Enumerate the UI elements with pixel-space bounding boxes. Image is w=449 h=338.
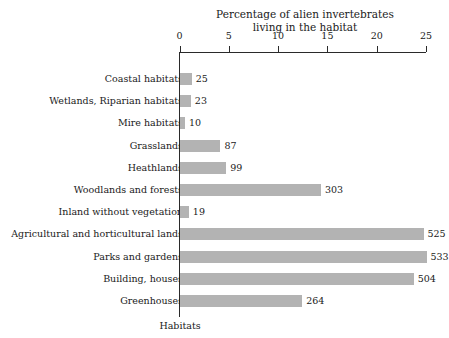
y-axis-title: Habitats bbox=[100, 320, 260, 331]
bar bbox=[180, 117, 185, 129]
bar-value-label: 525 bbox=[428, 228, 446, 239]
x-axis-line bbox=[179, 52, 426, 53]
x-tick-label: 5 bbox=[226, 30, 232, 41]
bar bbox=[180, 95, 191, 107]
bar bbox=[180, 73, 192, 85]
x-tick-label: 10 bbox=[272, 30, 284, 41]
x-tick-label: 15 bbox=[321, 30, 333, 41]
bar-row: Wetlands, Riparian habitats23 bbox=[0, 92, 435, 111]
bar-value-label: 25 bbox=[196, 73, 208, 84]
x-tick-mark bbox=[426, 46, 427, 52]
x-tick-mark bbox=[377, 46, 378, 52]
bar bbox=[180, 162, 226, 174]
x-tick-label: 0 bbox=[176, 30, 182, 41]
bar-row: Inland without vegetation19 bbox=[0, 203, 435, 222]
bar-row: Woodlands and forests303 bbox=[0, 181, 435, 200]
category-label: Mire habitats bbox=[0, 117, 183, 128]
bar-value-label: 19 bbox=[193, 206, 205, 217]
bar-value-label: 533 bbox=[431, 251, 449, 262]
category-label: Woodlands and forests bbox=[0, 184, 183, 195]
category-label: Greenhouses bbox=[0, 295, 183, 306]
x-tick-mark bbox=[327, 46, 328, 52]
x-tick-mark bbox=[229, 46, 230, 52]
bar bbox=[180, 273, 414, 285]
bar bbox=[180, 251, 427, 263]
bar bbox=[180, 184, 321, 196]
bar-row: Coastal habitats25 bbox=[0, 70, 435, 89]
chart-title-line-1: Percentage of alien invertebrates bbox=[176, 8, 434, 21]
bar bbox=[180, 140, 220, 152]
bar-row: Agricultural and horticultural lands525 bbox=[0, 225, 435, 244]
bar-value-label: 504 bbox=[418, 273, 436, 284]
x-tick-label: 25 bbox=[420, 30, 432, 41]
x-tick-mark bbox=[180, 46, 181, 52]
category-label: Building, houses bbox=[0, 273, 183, 284]
bar-row: Greenhouses264 bbox=[0, 292, 435, 311]
bar-row: Heathlands99 bbox=[0, 159, 435, 178]
x-tick-mark bbox=[278, 46, 279, 52]
bar-value-label: 264 bbox=[306, 295, 324, 306]
bar-value-label: 10 bbox=[189, 117, 201, 128]
bar-row: Building, houses504 bbox=[0, 270, 435, 289]
category-label: Heathlands bbox=[0, 162, 183, 173]
category-label: Grasslands bbox=[0, 140, 183, 151]
bar-value-label: 99 bbox=[230, 162, 242, 173]
category-label: Wetlands, Riparian habitats bbox=[0, 95, 183, 106]
bar bbox=[180, 206, 189, 218]
chart-title: Percentage of alien invertebrates living… bbox=[176, 8, 434, 34]
category-label: Agricultural and horticultural lands bbox=[0, 228, 183, 239]
category-label: Coastal habitats bbox=[0, 73, 183, 84]
bar-value-label: 23 bbox=[195, 95, 207, 106]
x-tick-label: 20 bbox=[371, 30, 383, 41]
bar-value-label: 87 bbox=[224, 140, 236, 151]
bar-row: Grasslands87 bbox=[0, 137, 435, 156]
chart-title-line-2: living in the habitat bbox=[176, 21, 434, 34]
bar bbox=[180, 295, 302, 307]
category-label: Parks and gardens bbox=[0, 251, 183, 262]
category-label: Inland without vegetation bbox=[0, 206, 183, 217]
bar bbox=[180, 228, 424, 240]
bar-row: Mire habitats10 bbox=[0, 114, 435, 133]
bar-row: Parks and gardens533 bbox=[0, 248, 435, 267]
bar-value-label: 303 bbox=[325, 184, 343, 195]
